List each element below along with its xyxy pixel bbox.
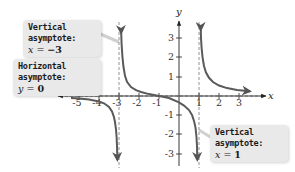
- x-axis-label: x: [268, 90, 274, 101]
- callout-title: Vertical asymptote:: [28, 22, 96, 44]
- callout-vertical-asymptote-right: Vertical asymptote: x = 1: [210, 125, 288, 162]
- x-tick-label: -3: [112, 97, 121, 108]
- x-tick-label: 1: [196, 97, 202, 108]
- eq-op: =: [33, 44, 47, 55]
- callout-equation: y = 0: [18, 83, 96, 94]
- y-tick-label: -2: [165, 128, 174, 139]
- x-tick-label: 2: [216, 97, 222, 108]
- callout-equation: x = 1: [215, 149, 283, 160]
- callout-title: Horizontal asymptote:: [18, 61, 96, 83]
- y-tick-label: 2: [168, 51, 174, 62]
- y-tick-label: -1: [165, 109, 174, 120]
- eq-val: 0: [37, 83, 44, 94]
- x-tick-label: -2: [132, 97, 141, 108]
- curve-right-branch: [201, 30, 250, 91]
- callout-horizontal-asymptote: Horizontal asymptote: y = 0: [13, 59, 101, 96]
- eq-val: 1: [234, 149, 241, 160]
- y-tick-label: -3: [165, 148, 174, 159]
- callout-equation: x = −3: [28, 44, 96, 55]
- y-tick-label: 1: [168, 71, 174, 82]
- eq-op: =: [220, 149, 234, 160]
- eq-val: −3: [47, 44, 62, 55]
- x-tick-label: -1: [152, 97, 161, 108]
- eq-op: =: [23, 83, 37, 94]
- callout-title: Vertical asymptote:: [215, 127, 283, 149]
- rational-function-graph: -5 -4 -3 -2 -1 1 2 3 3 2 1 -1 -2 -3 x y …: [0, 0, 295, 172]
- callout-pointer-vertical-left: [98, 33, 119, 42]
- y-axis-label: y: [175, 6, 182, 17]
- y-tick-label: 3: [168, 32, 174, 43]
- callout-vertical-asymptote-left: Vertical asymptote: x = −3: [23, 20, 101, 57]
- x-tick-label: 3: [236, 97, 242, 108]
